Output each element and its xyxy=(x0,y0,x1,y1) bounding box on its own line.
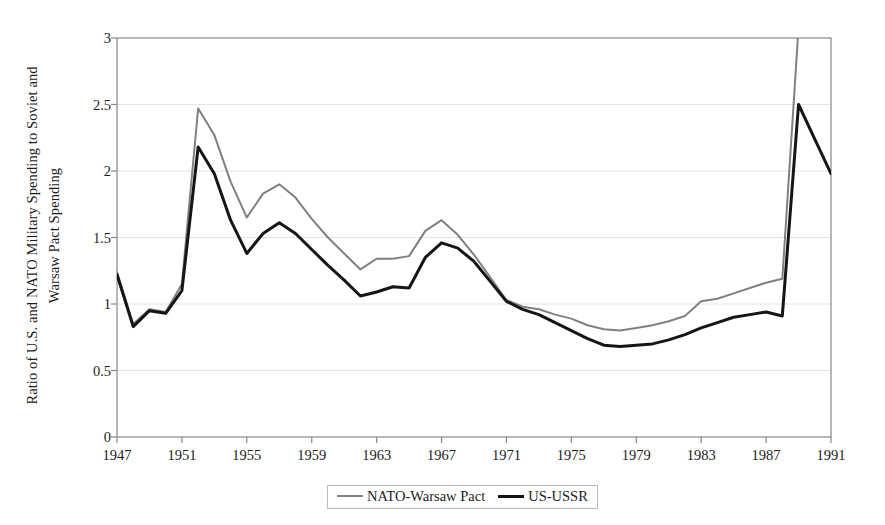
legend-label-nato-warsaw-pact: NATO-Warsaw Pact xyxy=(367,489,485,504)
legend-entry-nato-warsaw-pact: NATO-Warsaw Pact xyxy=(337,489,485,504)
black-line-swatch-icon xyxy=(498,495,524,498)
plot-area xyxy=(0,0,885,525)
chart-legend: NATO-Warsaw Pact US-USSR xyxy=(327,485,598,509)
axis-tick-marks xyxy=(111,38,831,443)
data-series-group xyxy=(117,0,831,347)
gridlines xyxy=(117,105,831,371)
chart-figure: Ratio of U.S. and NATO Military Spending… xyxy=(0,0,885,525)
gray-line-swatch-icon xyxy=(337,495,363,497)
series-line-us-ussr xyxy=(117,105,831,347)
series-line-nato-warsaw-pact xyxy=(117,0,831,331)
legend-entry-us-ussr: US-USSR xyxy=(498,489,588,504)
legend-label-us-ussr: US-USSR xyxy=(528,489,588,504)
